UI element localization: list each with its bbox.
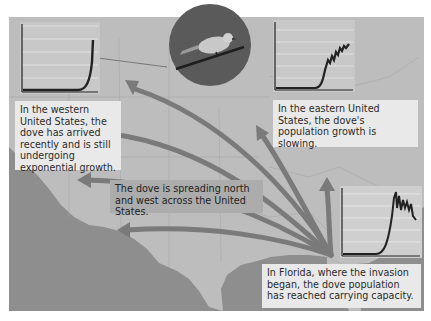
caption-florida: In Florida, where the invasion began, th… [262, 264, 421, 308]
caption-spreading: The dove is spreading north and west acr… [110, 180, 263, 213]
florida-population-chart [340, 186, 422, 258]
caption-western-us: In the western United States, the dove h… [15, 101, 121, 170]
caption-eastern-us: In the eastern United States, the dove's… [273, 100, 418, 147]
eastern-population-chart [273, 20, 355, 92]
dove-head [223, 33, 233, 43]
western-population-chart [20, 22, 100, 94]
dove-photo [168, 3, 252, 87]
